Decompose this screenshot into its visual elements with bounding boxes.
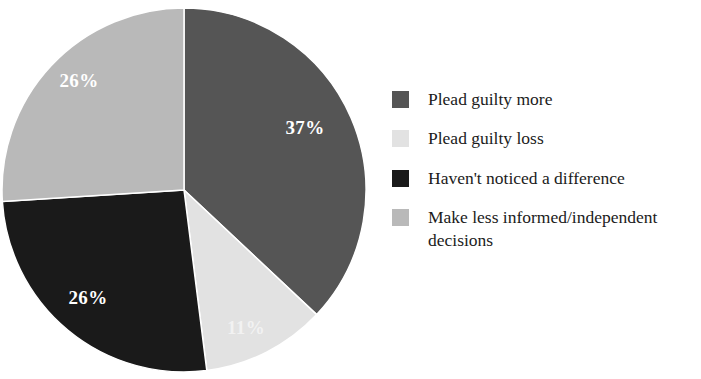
legend-label-make-less-informed-independent-decisions: Make less informed/independent decisions bbox=[428, 206, 657, 251]
pie-slice[interactable] bbox=[2, 8, 184, 201]
legend-item-plead-guilty-more[interactable]: Plead guilty more bbox=[392, 88, 692, 110]
pie-slice-value-label: 26% bbox=[59, 70, 98, 91]
legend-label-plead-guilty-loss: Plead guilty loss bbox=[428, 127, 544, 149]
chart-legend: Plead guilty more Plead guilty loss Have… bbox=[392, 88, 692, 251]
pie-chart: 37%11%26%26% bbox=[0, 0, 380, 379]
pie-slice-value-label: 26% bbox=[68, 287, 107, 308]
pie-slice-value-label: 37% bbox=[285, 117, 324, 138]
pie-slice-group bbox=[2, 8, 366, 372]
legend-swatch-make-less-informed-independent-decisions bbox=[392, 209, 409, 226]
pie-slice[interactable] bbox=[2, 190, 206, 372]
pie-chart-svg: 37%11%26%26% bbox=[0, 0, 380, 379]
legend-label-plead-guilty-more: Plead guilty more bbox=[428, 88, 552, 110]
chart-page: 37%11%26%26% Plead guilty more Plead gui… bbox=[0, 0, 701, 379]
legend-item-plead-guilty-loss[interactable]: Plead guilty loss bbox=[392, 127, 692, 149]
pie-slice-value-label: 11% bbox=[227, 317, 265, 338]
legend-swatch-plead-guilty-loss bbox=[392, 130, 409, 147]
legend-item-make-less-informed-independent-decisions[interactable]: Make less informed/independent decisions bbox=[392, 206, 692, 251]
legend-item-havent-noticed-a-difference[interactable]: Haven't noticed a difference bbox=[392, 167, 692, 189]
legend-label-havent-noticed-a-difference: Haven't noticed a difference bbox=[428, 167, 625, 189]
legend-swatch-havent-noticed-a-difference bbox=[392, 170, 409, 187]
legend-swatch-plead-guilty-more bbox=[392, 91, 409, 108]
